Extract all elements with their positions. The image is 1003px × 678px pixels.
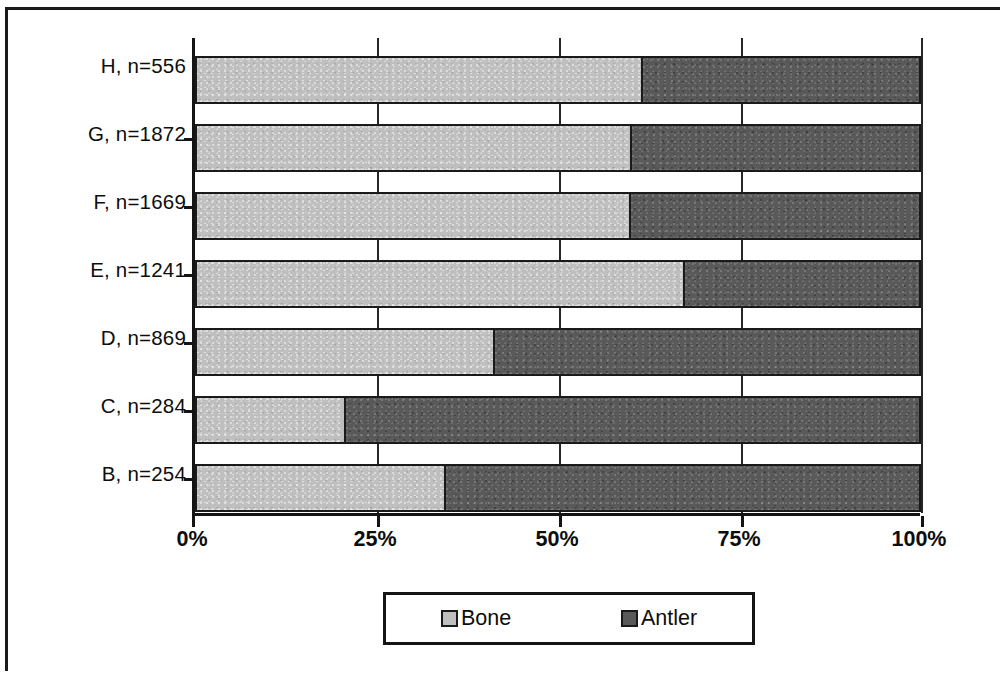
bar-row[interactable] <box>195 464 923 512</box>
y-axis-label-b: B, n=254 <box>16 462 186 486</box>
y-axis-tick <box>184 138 195 141</box>
x-axis-tick-100 <box>921 516 924 527</box>
legend-entry-antler[interactable]: Antler <box>621 606 697 631</box>
bar-segment-bone[interactable] <box>195 464 446 512</box>
bar-segment-antler[interactable] <box>344 396 921 444</box>
bar-row[interactable] <box>195 328 923 376</box>
stacked-bar-chart: H, n=556 G, n=1872 F, n=1669 E, n=1241 D… <box>0 0 1003 678</box>
x-axis-tick-0 <box>192 516 195 527</box>
legend-label-antler: Antler <box>641 606 697 631</box>
y-axis-tick <box>184 410 195 413</box>
y-axis-tick <box>184 342 195 345</box>
bar-row[interactable] <box>195 124 923 172</box>
bar-segment-antler[interactable] <box>641 56 921 104</box>
y-axis-label-f: F, n=1669 <box>16 190 186 214</box>
x-axis-tick-50 <box>559 516 562 527</box>
antler-swatch-icon <box>621 610 638 627</box>
x-axis-label-50: 50% <box>535 527 578 552</box>
y-axis-label-h: H, n=556 <box>16 54 186 78</box>
bar-segment-antler[interactable] <box>629 192 921 240</box>
chart-legend: Bone Antler <box>383 592 755 645</box>
bar-segment-bone[interactable] <box>195 192 631 240</box>
y-axis-label-d: D, n=869 <box>16 326 186 350</box>
bar-segment-bone[interactable] <box>195 328 495 376</box>
y-axis-label-e: E, n=1241 <box>16 258 186 282</box>
bar-segment-antler[interactable] <box>630 124 921 172</box>
bone-swatch-icon <box>441 610 458 627</box>
bar-segment-antler[interactable] <box>444 464 921 512</box>
plot-area <box>192 38 920 516</box>
legend-entry-bone[interactable]: Bone <box>441 606 511 631</box>
x-axis-label-0: 0% <box>176 527 207 552</box>
bar-row[interactable] <box>195 396 923 444</box>
y-axis-label-c: C, n=284 <box>16 394 186 418</box>
x-axis-label-100: 100% <box>892 527 947 552</box>
x-axis-tick-75 <box>741 516 744 527</box>
bar-segment-bone[interactable] <box>195 396 346 444</box>
y-axis-tick <box>184 274 195 277</box>
bar-segment-bone[interactable] <box>195 124 632 172</box>
bar-row[interactable] <box>195 192 923 240</box>
x-axis-label-25: 25% <box>353 527 396 552</box>
bar-row[interactable] <box>195 56 923 104</box>
y-axis-label-g: G, n=1872 <box>16 122 186 146</box>
y-axis-labels: H, n=556 G, n=1872 F, n=1669 E, n=1241 D… <box>8 38 186 516</box>
x-axis-label-75: 75% <box>717 527 760 552</box>
y-axis-tick <box>184 478 195 481</box>
bar-row[interactable] <box>195 260 923 308</box>
bar-segment-antler[interactable] <box>493 328 921 376</box>
y-axis-tick <box>184 206 195 209</box>
bar-segment-bone[interactable] <box>195 260 685 308</box>
bar-segment-antler[interactable] <box>683 260 921 308</box>
bar-segment-bone[interactable] <box>195 56 643 104</box>
x-axis-tick-25 <box>377 516 380 527</box>
legend-label-bone: Bone <box>461 606 511 631</box>
